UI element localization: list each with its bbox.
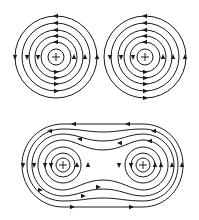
plus-icon — [59, 161, 67, 169]
magnetic-field-diagram — [0, 0, 199, 220]
top-right-field — [104, 14, 187, 100]
plus-icon — [139, 161, 147, 169]
plus-icon — [141, 53, 149, 61]
bottom-combined-field — [21, 122, 184, 209]
top-left-field — [13, 14, 99, 98]
plus-icon — [52, 53, 60, 61]
